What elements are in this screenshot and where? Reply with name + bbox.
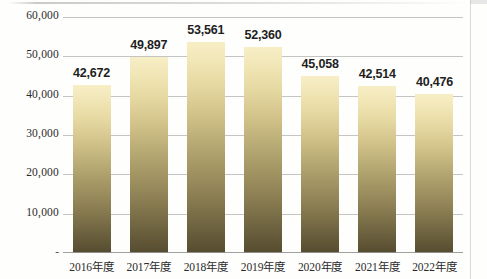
y-axis-tick-label: 60,000 [0, 9, 59, 21]
scan-artifact-right-border [470, 0, 471, 279]
bar [415, 94, 453, 253]
y-axis-zero-label: - [0, 245, 59, 257]
y-axis-tick-label: 10,000 [0, 206, 59, 218]
chart-screenshot: -10,00020,00030,00040,00050,00060,000 42… [0, 0, 487, 279]
plot-area [63, 17, 463, 253]
bar-value-label: 42,672 [57, 66, 127, 80]
y-axis-tick-label: 40,000 [0, 88, 59, 100]
bar [358, 86, 396, 253]
scan-artifact-top [8, 2, 470, 4]
gridline [63, 17, 463, 18]
bar-value-label: 52,360 [228, 28, 298, 42]
x-axis-tick-label: 2022年度 [399, 258, 469, 274]
axis-baseline [63, 252, 463, 253]
bar [187, 42, 225, 253]
bar-value-label: 49,897 [114, 38, 184, 52]
bar-value-label: 40,476 [399, 75, 469, 89]
y-axis-tick-label: 20,000 [0, 166, 59, 178]
y-axis-tick-label: 30,000 [0, 127, 59, 139]
y-axis-tick-label: 50,000 [0, 48, 59, 60]
scan-artifact-top-right [470, 0, 487, 4]
bar [301, 76, 339, 253]
bar [73, 85, 111, 253]
bar [244, 47, 282, 253]
bar [130, 57, 168, 253]
